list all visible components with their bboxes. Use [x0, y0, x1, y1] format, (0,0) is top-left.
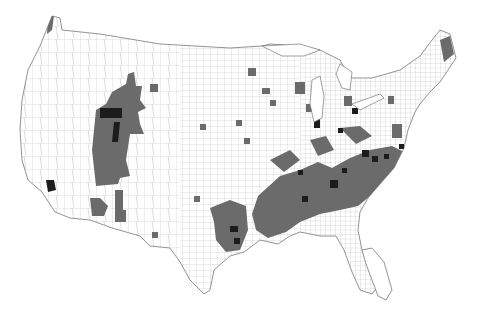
western-counties-grid: [0, 0, 180, 327]
us-county-choropleth-map: [0, 0, 490, 327]
county-shading: [0, 0, 490, 327]
